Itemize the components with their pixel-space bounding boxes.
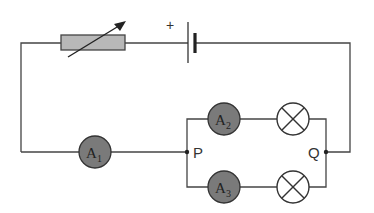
ammeter-a3-subscript: 3 [226,188,231,199]
wire-battery-right [196,43,350,152]
junction-q: Q [308,144,328,161]
lamp-upper [277,103,309,135]
junction-p-dot [185,150,189,154]
ammeter-a3: A 3 [208,171,240,203]
arrow-head-icon [114,21,126,31]
wire-left-top [21,43,61,152]
rheostat [61,21,126,57]
ammeter-a1: A 1 [79,136,111,168]
junction-q-label: Q [308,144,320,161]
battery: + [166,17,195,63]
junction-p-label: P [193,144,203,161]
ammeter-a2-subscript: 2 [226,120,231,131]
ammeter-a1-letter: A [86,145,97,161]
ammeter-a2-letter: A [215,112,226,128]
lamp-lower [277,171,309,203]
battery-plus-label: + [166,17,174,33]
junction-q-dot [324,150,328,154]
ammeter-a3-letter: A [215,180,226,196]
ammeter-a1-subscript: 1 [97,153,102,164]
ammeter-a2: A 2 [208,103,240,135]
circuit-diagram: + A 1 A 2 A 3 P Q [0,0,374,213]
